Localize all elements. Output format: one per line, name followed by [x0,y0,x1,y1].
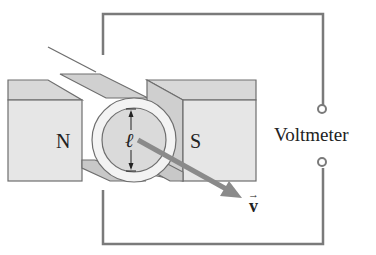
north-pole-label: N [56,130,70,152]
north-magnet [8,80,82,181]
voltmeter-terminal-top [318,105,326,113]
velocity-label: v [249,196,258,216]
voltmeter-label: Voltmeter [274,124,349,145]
rail-back-line [48,47,96,72]
voltmeter-terminal-bottom [318,158,326,166]
north-magnet-face [8,100,82,181]
moving-rod-emf-diagram: ℓ N S → v Voltmeter [0,0,376,255]
north-magnet-top [8,80,82,100]
length-label: ℓ [125,129,134,151]
south-pole-label: S [190,130,201,152]
diagram-canvas: ℓ N S → v Voltmeter [0,0,376,255]
